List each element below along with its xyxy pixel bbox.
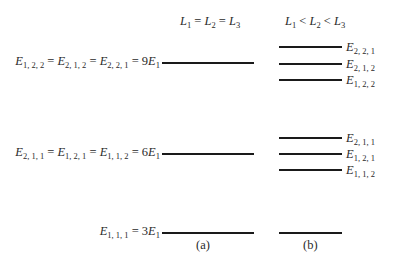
header-equal-lengths: L1 = L2 = L3 bbox=[180, 14, 240, 30]
energy-level-line-b-122 bbox=[279, 79, 342, 81]
energy-level-line-b-221 bbox=[279, 46, 342, 48]
energy-level-line-a-6E1 bbox=[162, 153, 254, 155]
caption-a: (a) bbox=[196, 238, 210, 253]
caption-b: (b) bbox=[303, 238, 318, 253]
level-label-9E1: E1, 2, 2 = E2, 1, 2 = E2, 2, 1 = 9E1 bbox=[15, 54, 160, 70]
energy-level-line-b-111 bbox=[279, 232, 342, 234]
header-unequal-lengths: L1 < L2 < L3 bbox=[285, 14, 345, 30]
energy-level-line-a-9E1 bbox=[162, 62, 254, 64]
level-label-b-221: E2, 2, 1 bbox=[346, 40, 375, 56]
level-label-b-211: E2, 1, 1 bbox=[346, 131, 375, 147]
energy-level-line-b-211 bbox=[279, 137, 342, 139]
level-label-b-122: E1, 2, 2 bbox=[346, 73, 375, 89]
level-label-b-112: E1, 1, 2 bbox=[346, 163, 375, 179]
energy-level-line-b-112 bbox=[279, 169, 342, 171]
level-label-3E1: E1, 1, 1 = 3E1 bbox=[100, 224, 160, 240]
energy-level-line-b-121 bbox=[279, 153, 342, 155]
level-label-b-212: E2, 1, 2 bbox=[346, 57, 375, 73]
energy-level-line-b-212 bbox=[279, 63, 342, 65]
energy-level-line-a-3E1 bbox=[162, 232, 254, 234]
level-label-6E1: E2, 1, 1 = E1, 2, 1 = E1, 1, 2 = 6E1 bbox=[15, 145, 160, 161]
level-label-b-121: E1, 2, 1 bbox=[346, 147, 375, 163]
